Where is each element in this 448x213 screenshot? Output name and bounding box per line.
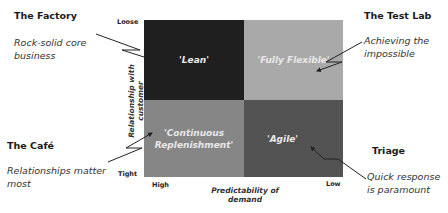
arrow-factory-icon	[96, 34, 144, 57]
arrow-cafe-icon	[108, 133, 152, 162]
connector-arrows	[0, 0, 448, 213]
arrow-triage-icon	[311, 147, 366, 179]
arrow-test-lab-icon	[317, 42, 362, 71]
